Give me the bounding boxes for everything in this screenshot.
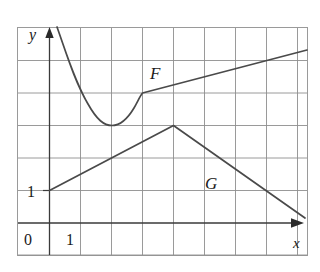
origin-label: 0	[24, 231, 32, 248]
x-axis-label: x	[292, 235, 300, 251]
y-unit-tick-label: 1	[27, 183, 35, 200]
curve-label-F: F	[149, 64, 161, 83]
figure-container: y x 0 1 1 F G	[0, 0, 320, 272]
y-axis-label: y	[27, 26, 37, 44]
graph-canvas: y x 0 1 1 F G	[0, 0, 320, 272]
curve-label-G: G	[205, 174, 217, 193]
x-unit-tick-label: 1	[66, 231, 74, 248]
